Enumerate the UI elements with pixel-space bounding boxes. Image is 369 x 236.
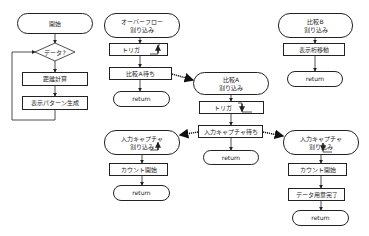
compare-b-return-terminal: return xyxy=(287,71,343,87)
compare-b-isr-terminal: 比較B 割り込み xyxy=(278,13,353,38)
overflow-isr-terminal: オーバーフロー 割り込み xyxy=(104,13,180,38)
overflow-trigger-step: トリガ xyxy=(109,43,168,56)
display-pattern-step: 表示パターン生成 xyxy=(22,96,88,110)
wait-compare-a-step: 比較A待ち xyxy=(109,67,172,80)
wait-input-capture-step: 入力キャプチャ待ち xyxy=(198,125,263,138)
capture-right-count-start-step: カウント開始 xyxy=(288,163,347,176)
distance-calc-step: 距離計算 xyxy=(22,72,88,86)
compare-a-isr-terminal: 比較A 割り込み xyxy=(193,72,269,95)
capture-left-return-terminal: return xyxy=(113,185,170,201)
capture-right-return-terminal: return xyxy=(292,210,349,226)
start-label: 開始 xyxy=(49,20,61,28)
flowchart-canvas: 開始 データ? 距離計算 表示パターン生成 オーバーフロー 割り込み トリガ 比… xyxy=(0,0,369,236)
decision-label: データ? xyxy=(35,48,75,57)
data-ready-step: データ用意完了 xyxy=(288,188,345,201)
capture-isr-left-terminal: 入力キャプチャ 割り込み xyxy=(104,130,180,155)
overflow-return-terminal: return xyxy=(113,91,170,107)
capture-isr-right-terminal: 入力キャプチャ 割り込み xyxy=(283,130,359,155)
capture-left-count-start-step: カウント開始 xyxy=(109,163,168,176)
display-digit-shift-step: 表示桁移動 xyxy=(283,43,345,56)
compare-a-return-terminal: return xyxy=(203,150,259,165)
compare-a-trigger-step: トリガ xyxy=(199,101,264,114)
start-terminal: 開始 xyxy=(17,13,93,34)
